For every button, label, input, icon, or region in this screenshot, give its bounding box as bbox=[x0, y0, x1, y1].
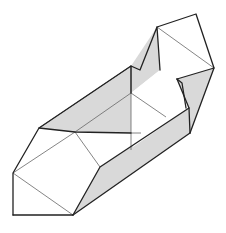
origami-box-diagram bbox=[0, 0, 226, 233]
